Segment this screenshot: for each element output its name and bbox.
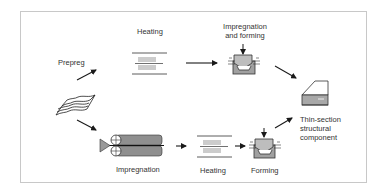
- label-impregnation-forming-line2: and forming: [220, 31, 270, 40]
- label-heating-top: Heating: [137, 27, 163, 36]
- label-prepreg: Prepreg: [58, 58, 85, 67]
- label-component-line2: structural: [300, 124, 341, 133]
- arrow-press-to-component: [275, 66, 296, 78]
- arrow-to-impregnation: [77, 120, 96, 130]
- label-heating-bottom: Heating: [200, 166, 226, 175]
- label-forming: Forming: [251, 166, 279, 175]
- press-mold-icon-bottom: [249, 128, 281, 158]
- label-impregnation-forming: Impregnation and forming: [220, 22, 270, 40]
- process-diagram: [0, 0, 384, 194]
- label-impregnation-forming-line1: Impregnation: [220, 22, 270, 31]
- label-component: Thin-section structural component: [300, 115, 341, 142]
- arrow-prepreg: [77, 70, 96, 80]
- component-icon: [302, 81, 328, 105]
- heater-icon-bottom: [197, 136, 232, 157]
- label-impregnation-bottom: Impregnation: [116, 165, 160, 174]
- label-component-line3: component: [300, 133, 341, 142]
- roller-impregnation-icon: [100, 135, 164, 156]
- heater-icon-top: [132, 53, 167, 74]
- label-component-line1: Thin-section: [300, 115, 341, 124]
- arrow-forming-to-component: [275, 118, 292, 128]
- press-mold-icon-top: [228, 44, 260, 74]
- fabric-stack-icon: [56, 95, 95, 115]
